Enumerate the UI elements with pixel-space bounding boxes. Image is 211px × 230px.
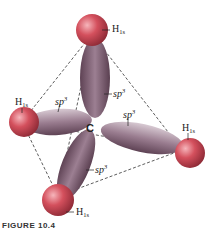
sp3-lobes (23, 38, 186, 205)
h-atom-left (9, 107, 39, 137)
sp3-label-bottom: sp3 (95, 164, 107, 175)
h-atom-bottom (42, 184, 74, 216)
h-atom-right (175, 138, 205, 168)
h1s-label-top: H1s (112, 24, 125, 36)
h1s-label-right: H1s (182, 123, 195, 135)
methane-sp3-diagram (0, 0, 211, 230)
sp3-label-right: sp3 (123, 109, 135, 120)
sp3-label-left: sp3 (55, 96, 67, 107)
h1s-label-left: H1s (15, 97, 28, 109)
lobe-top (80, 38, 110, 118)
carbon-label: C (86, 123, 94, 134)
sp3-label-top: sp3 (113, 88, 125, 99)
h1s-label-bottom: H1s (76, 207, 89, 219)
figure-caption: FIGURE 10.4 (2, 221, 56, 230)
